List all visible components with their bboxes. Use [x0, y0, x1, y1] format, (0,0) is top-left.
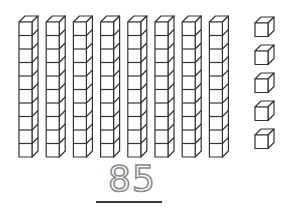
- ones-cube: [255, 129, 274, 149]
- answer-underline: [96, 201, 162, 203]
- front-face: [255, 79, 268, 93]
- tens-rod: [19, 16, 38, 157]
- front-face: [255, 107, 268, 121]
- tens-rod: [182, 16, 201, 157]
- tens-rod: [46, 16, 65, 157]
- tens-rod: [128, 16, 147, 157]
- ones-cube: [255, 17, 274, 37]
- tens-rod: [209, 16, 228, 157]
- tens-rod: [73, 16, 92, 157]
- ones-cube: [255, 45, 274, 65]
- base-ten-diagram: 85: [0, 0, 293, 212]
- front-face: [255, 135, 268, 149]
- tens-rod: [155, 16, 174, 157]
- front-face: [255, 51, 268, 65]
- number-label: 85: [101, 160, 163, 198]
- tens-rod: [101, 16, 120, 157]
- ones-cube: [255, 73, 274, 93]
- front-face: [255, 23, 268, 37]
- ones-cube: [255, 101, 274, 121]
